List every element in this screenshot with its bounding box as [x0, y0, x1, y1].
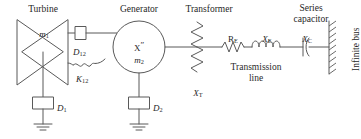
- turbine-mass-subscript: 1: [46, 32, 49, 39]
- shaft-stiffness-subscript: 12: [82, 77, 88, 84]
- generator-heading: Generator: [120, 4, 158, 14]
- damper-d1-symbol: [33, 97, 54, 130]
- transformer-heading: Transformer: [185, 4, 232, 14]
- damper-one-label: D1: [57, 97, 67, 115]
- line-reactance-label: XE: [262, 28, 271, 46]
- transformer-reactance-subscript: T: [199, 91, 203, 98]
- shaft-damper-d12-symbol: [68, 27, 117, 40]
- transformer-reactance-label: XT: [193, 82, 202, 100]
- series-capacitor-heading-line1: Series: [299, 3, 322, 13]
- infinite-bus-label: Infinite bus: [351, 27, 361, 71]
- generator-mass-subscript: 2: [141, 58, 144, 65]
- damper-two-subscript: 2: [160, 106, 163, 113]
- shaft-damping-subscript: 12: [80, 50, 86, 57]
- turbine-mass-label: m1: [39, 23, 49, 41]
- capacitor-reactance-label: XC: [302, 28, 312, 46]
- capacitor-reactance-subscript: C: [308, 37, 312, 44]
- transmission-line-caption-line2: line: [249, 73, 263, 83]
- damper-two-label: D2: [153, 97, 163, 115]
- line-resistance-subscript: E: [234, 37, 238, 44]
- shaft-stiffness-label: K12: [76, 68, 88, 86]
- series-capacitor-heading-line2: capacitor: [294, 14, 329, 24]
- generator-mass-label: m2: [134, 49, 144, 67]
- line-reactance-subscript: E: [268, 37, 272, 44]
- shaft-damping-label: D12: [73, 41, 86, 59]
- damper-d2-symbol: [129, 97, 150, 130]
- shaft-spring-k12-symbol: [68, 59, 105, 66]
- power-system-diagram: Turbine Generator Transformer Series cap…: [0, 0, 361, 139]
- transmission-line-caption-line1: Transmission: [231, 62, 282, 72]
- line-resistance-label: RE: [228, 28, 238, 46]
- infinite-bus-symbol: [329, 21, 336, 74]
- damper-one-subscript: 1: [64, 106, 67, 113]
- turbine-heading: Turbine: [28, 4, 58, 14]
